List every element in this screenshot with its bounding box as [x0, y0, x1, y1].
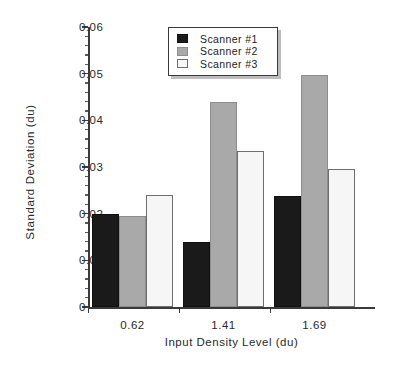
bar	[146, 195, 173, 307]
bar	[92, 214, 119, 307]
legend-item: Scanner #3	[177, 58, 270, 70]
y-axis-minor-tick	[85, 64, 89, 65]
legend-item-label: Scanner #1	[200, 33, 258, 45]
y-axis-minor-tick	[85, 185, 89, 186]
bar	[237, 151, 264, 307]
y-axis-minor-tick	[85, 232, 89, 233]
y-axis-minor-tick	[85, 45, 89, 46]
bar	[274, 196, 301, 307]
y-axis-minor-tick	[85, 148, 89, 149]
y-axis-minor-tick	[85, 288, 89, 289]
y-axis-minor-tick	[85, 36, 89, 37]
bar	[119, 216, 146, 307]
y-axis-minor-tick	[85, 278, 89, 279]
legend: Scanner #1Scanner #2Scanner #3	[168, 27, 278, 76]
legend-swatch-icon	[177, 59, 188, 68]
y-axis-title: Standard Deviation (du)	[24, 72, 36, 272]
bar	[183, 242, 210, 307]
x-axis-tick	[179, 307, 180, 313]
x-axis-line	[88, 307, 375, 309]
y-axis-minor-tick	[85, 110, 89, 111]
y-axis-minor-tick	[85, 92, 89, 93]
bar	[328, 169, 355, 307]
legend-item-label: Scanner #2	[200, 45, 258, 57]
y-axis-minor-tick	[85, 101, 89, 102]
y-axis-minor-tick	[85, 297, 89, 298]
y-axis-minor-tick	[85, 176, 89, 177]
y-axis-minor-tick	[85, 241, 89, 242]
x-axis-tick-label: 1.69	[302, 319, 326, 331]
x-axis-tick-label: 0.62	[120, 319, 144, 331]
y-axis-minor-tick	[85, 157, 89, 158]
legend-swatch-icon	[177, 47, 188, 56]
bar	[301, 75, 328, 307]
legend-swatch-icon	[177, 34, 188, 43]
y-axis-minor-tick	[85, 194, 89, 195]
x-axis-tick-label: 1.41	[211, 319, 235, 331]
legend-item: Scanner #2	[177, 46, 270, 58]
y-axis-minor-tick	[85, 82, 89, 83]
x-axis-tick	[88, 307, 89, 313]
y-axis-minor-tick	[85, 250, 89, 251]
legend-item-label: Scanner #3	[200, 58, 258, 70]
y-axis-minor-tick	[85, 138, 89, 139]
x-axis-tick	[270, 307, 271, 313]
y-axis-minor-tick	[85, 222, 89, 223]
bar	[210, 102, 237, 307]
y-axis-minor-tick	[85, 54, 89, 55]
legend-item: Scanner #1	[177, 33, 270, 45]
x-axis-title: Input Density Level (du)	[88, 336, 375, 348]
y-axis-minor-tick	[85, 129, 89, 130]
y-axis-minor-tick	[85, 204, 89, 205]
y-axis-minor-tick	[85, 269, 89, 270]
bar-chart: Standard Deviation (du) 00.010.020.030.0…	[0, 0, 395, 371]
